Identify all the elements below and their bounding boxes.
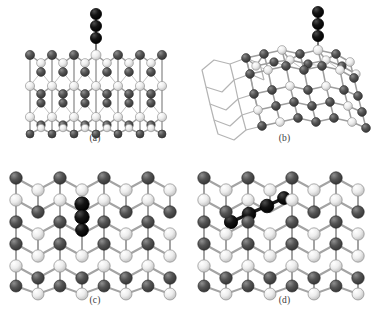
- adsorbate-atom: [75, 197, 89, 211]
- adsorbate-atom: [260, 199, 274, 213]
- adsorbate-atom: [312, 6, 323, 17]
- panel-d-lattice-atoms: [198, 172, 364, 300]
- figure-root: (a): [0, 0, 379, 321]
- adsorbate-atom: [76, 224, 89, 237]
- adsorbate-atom: [312, 18, 323, 29]
- panel-a-adsorbate-chain: [90, 8, 101, 55]
- panel-a-bond-network: [30, 55, 162, 134]
- panel-b-caption: (b): [190, 133, 379, 143]
- panel-d-adsorbate-chain-tilted: [224, 192, 290, 229]
- panel-c-caption: (c): [0, 295, 190, 305]
- panel-b-adsorbate-chain: [312, 6, 323, 50]
- panel-c-lattice-atoms: [10, 172, 176, 300]
- adsorbate-atom: [312, 30, 323, 41]
- adsorbate-atom: [90, 20, 101, 31]
- panel-d-caption: (d): [190, 295, 379, 305]
- adsorbate-atom: [90, 8, 101, 19]
- panel-a-caption: (a): [0, 133, 190, 143]
- adsorbate-atom: [75, 210, 89, 224]
- panel-c-adsorbate-chain-projected: [75, 197, 89, 237]
- adsorbate-atom: [90, 32, 101, 43]
